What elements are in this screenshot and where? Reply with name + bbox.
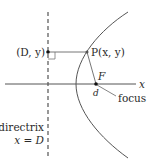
focus-text-label: focus xyxy=(118,92,146,104)
focus-leader-line xyxy=(97,85,116,96)
curve-point-label: P(x, y) xyxy=(91,46,125,58)
parabola-curve-refined xyxy=(76,12,128,158)
parabola-diagram: (D, y) P(x, y) F d x focus directrix x =… xyxy=(0,0,151,166)
directrix-equation-label: x = D xyxy=(14,134,44,146)
focus-coord-label: d xyxy=(93,88,99,98)
directrix-point-label: (D, y) xyxy=(16,46,45,58)
curve-point-dot xyxy=(86,51,89,54)
x-axis-label: x xyxy=(139,78,145,90)
focus-dot xyxy=(94,82,98,86)
directrix-text-label: directrix xyxy=(0,121,44,133)
focus-letter-label: F xyxy=(97,70,106,82)
directrix-point-dot xyxy=(46,50,50,54)
